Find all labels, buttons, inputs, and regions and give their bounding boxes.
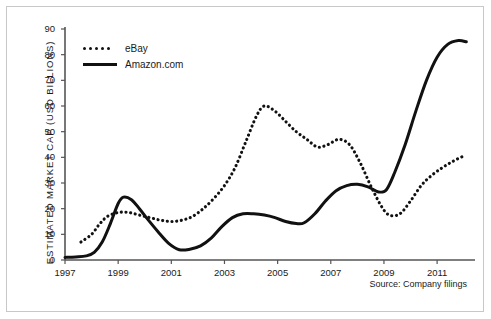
y-tick-label: 0 (29, 254, 55, 265)
legend-label-amazon: Amazon.com (125, 59, 183, 70)
x-tick-label: 1997 (45, 267, 85, 278)
x-tick-label: 2005 (258, 267, 298, 278)
legend-label-ebay: eBay (125, 43, 148, 54)
y-tick-label: 20 (29, 203, 55, 214)
x-tick-label: 2011 (417, 267, 457, 278)
series-line-amazon-com (65, 40, 466, 257)
x-tick-label: 2003 (204, 267, 244, 278)
y-tick-label: 30 (29, 177, 55, 188)
x-tick-label: 1999 (98, 267, 138, 278)
source-note: Source: Company filings (369, 279, 467, 289)
y-tick-label: 60 (29, 100, 55, 111)
chart-legend: eBay Amazon.com (83, 40, 183, 72)
x-tick-label: 2007 (311, 267, 351, 278)
chart-frame: ESTIMATED MARKET CAP (USD BILLIONS) eBay… (6, 6, 484, 312)
chart-figure: ESTIMATED MARKET CAP (USD BILLIONS) eBay… (0, 0, 491, 319)
y-tick-label: 50 (29, 126, 55, 137)
legend-item-amazon: Amazon.com (83, 56, 183, 72)
y-tick-label: 10 (29, 228, 55, 239)
series-line-ebay (81, 106, 464, 242)
y-tick-label: 70 (29, 74, 55, 85)
legend-swatch-dotted-icon (83, 43, 117, 54)
x-tick-label: 2001 (151, 267, 191, 278)
y-tick-label: 40 (29, 151, 55, 162)
y-tick-label: 80 (29, 49, 55, 60)
x-tick-label: 2009 (364, 267, 404, 278)
y-tick-label: 90 (29, 23, 55, 34)
legend-swatch-solid-icon (83, 59, 117, 69)
legend-item-ebay: eBay (83, 40, 183, 56)
